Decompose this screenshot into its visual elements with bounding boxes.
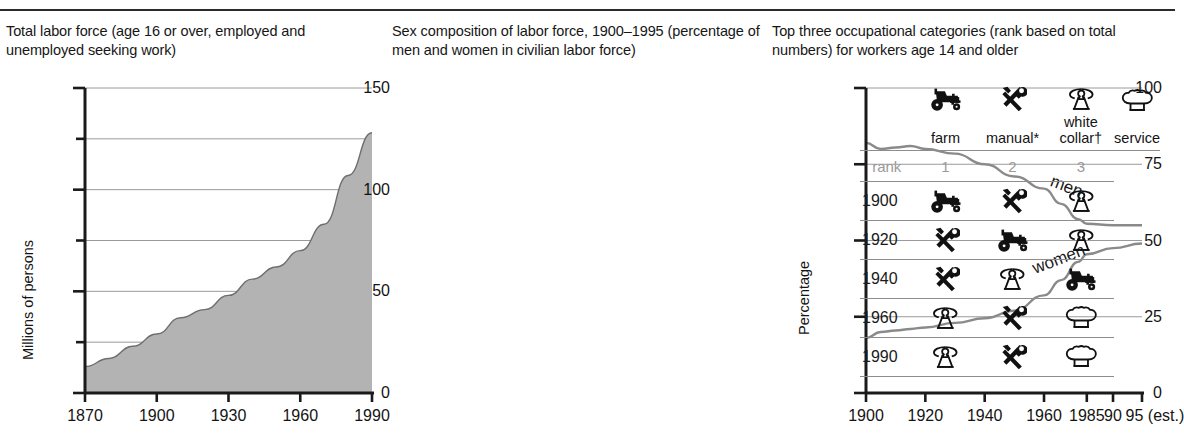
chart-total-labor-force: Millions of persons 05010015018701900193…: [0, 60, 390, 436]
rank-number: 2: [977, 151, 1047, 182]
legend-icon-cell: [1048, 72, 1115, 114]
chef-hat-icon: [1121, 89, 1154, 112]
legend-label: service: [1114, 114, 1160, 151]
rank-2-cell: [977, 338, 1047, 377]
table-row: 1900: [860, 182, 1160, 221]
rank-2-cell: [977, 221, 1047, 260]
row-year: 1940: [860, 260, 914, 299]
rank-3-cell: [1048, 221, 1115, 260]
row-year: 1920: [860, 221, 914, 260]
table-row: 1920: [860, 221, 1160, 260]
tractor-icon: [928, 86, 963, 112]
panel-1-caption: Total labor force (age 16 or over, emplo…: [6, 22, 381, 59]
chart-1-y-tick-label: 50: [321, 282, 390, 300]
tools-icon: [998, 305, 1027, 331]
chart-1-y-tick-label: 100: [321, 181, 390, 199]
panel-occupational-categories: Top three occupational categories (rank …: [772, 0, 1175, 436]
rank-1-cell: [914, 299, 978, 338]
telephone-icon: [1065, 86, 1098, 112]
tools-icon: [931, 266, 960, 292]
legend-icon-row: [860, 72, 1160, 114]
legend-icon-cell: [1114, 72, 1160, 114]
rank-2-cell: [977, 299, 1047, 338]
occupational-rank-table: farmmanual*white collar†servicerank12319…: [860, 72, 1160, 377]
tools-icon: [998, 344, 1027, 370]
row-year: 1900: [860, 182, 914, 221]
chart-1-x-tick-label: 1960: [282, 407, 318, 425]
rank-number: 1: [914, 151, 978, 182]
row-year: 1960: [860, 299, 914, 338]
chart-1-svg: [0, 60, 390, 436]
panel-sex-composition: Sex composition of labor force, 1900–199…: [392, 0, 770, 436]
tractor-icon: [928, 188, 963, 214]
rank-3-cell: [1048, 182, 1115, 221]
rank-2-cell: [977, 260, 1047, 299]
table-row: 1990: [860, 338, 1160, 377]
chart-1-x-tick-label: 1930: [211, 407, 247, 425]
rank-1-cell: [914, 338, 978, 377]
rank-2-cell: [977, 182, 1047, 221]
chart-1-y-tick-label: 0: [321, 384, 390, 402]
telephone-icon: [929, 344, 962, 370]
panel-3-caption: Top three occupational categories (rank …: [772, 22, 1175, 59]
panel-total-labor-force: Total labor force (age 16 or over, emplo…: [0, 0, 390, 436]
tools-icon: [931, 227, 960, 253]
chart-1-x-tick-label: 1990: [354, 407, 390, 425]
legend-label-spacer: [860, 114, 914, 151]
table-row: 1960: [860, 299, 1160, 338]
panel-2-caption: Sex composition of labor force, 1900–199…: [392, 22, 770, 59]
legend-icon-cell: [977, 72, 1047, 114]
rank-3-cell: [1048, 299, 1115, 338]
legend-label-row: farmmanual*white collar†service: [860, 114, 1160, 151]
legend-label: manual*: [977, 114, 1047, 151]
tools-icon: [998, 86, 1027, 112]
legend-spacer: [860, 72, 914, 114]
chart-1-y-tick-label: 150: [321, 79, 390, 97]
telephone-icon: [1065, 188, 1098, 214]
rank-number: 3: [1048, 151, 1115, 182]
rank-3-cell: [1048, 260, 1115, 299]
telephone-icon: [929, 305, 962, 331]
chart-1-x-tick-label: 1900: [139, 407, 175, 425]
telephone-icon: [1065, 227, 1098, 253]
tractor-icon: [1063, 266, 1098, 292]
chart-1-y-axis-label: Millions of persons: [20, 240, 36, 360]
legend-icon-cell: [914, 72, 978, 114]
tools-icon: [998, 188, 1027, 214]
rank-header-label: rank: [860, 151, 914, 182]
chef-hat-icon: [1065, 345, 1098, 368]
legend-label: farm: [914, 114, 978, 151]
rank-header-row: rank123: [860, 151, 1160, 182]
rank-3-cell: [1048, 338, 1115, 377]
table-row: 1940: [860, 260, 1160, 299]
chef-hat-icon: [1065, 306, 1098, 329]
tractor-icon: [995, 227, 1030, 253]
chart-1-x-tick-label: 1870: [67, 407, 103, 425]
legend-label: white collar†: [1048, 114, 1115, 151]
telephone-icon: [996, 266, 1029, 292]
row-year: 1990: [860, 338, 914, 377]
rank-1-cell: [914, 260, 978, 299]
rank-1-cell: [914, 221, 978, 260]
rank-1-cell: [914, 182, 978, 221]
